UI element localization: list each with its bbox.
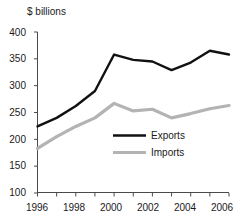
legend-swatch-group xyxy=(113,136,146,153)
x-tick-marks xyxy=(38,193,230,197)
data-series-group xyxy=(38,51,230,149)
series-line-imports xyxy=(38,103,230,148)
y-tick-marks xyxy=(34,32,38,193)
chart-figure: $ billions 400 350 300 250 200 150 100 1… xyxy=(0,0,246,221)
plot-area xyxy=(0,0,246,221)
series-line-exports xyxy=(38,51,230,127)
